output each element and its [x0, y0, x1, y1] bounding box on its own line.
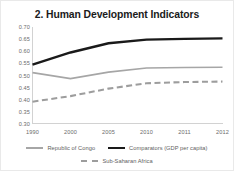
y-tick-label: 0.40: [19, 97, 30, 103]
chart-figure: 2. Human Development Indicators 0.700.65…: [0, 0, 234, 171]
x-tick-label: 2012: [216, 129, 229, 135]
legend-row: Republic of CongoComparators (GDP per ca…: [1, 141, 233, 154]
x-tick-label: 2010: [140, 129, 153, 135]
plot-area: [32, 27, 223, 124]
y-tick-label: 0.50: [19, 73, 30, 79]
series-line: [33, 82, 223, 102]
legend-entry[interactable]: Sub-Saharan Africa: [81, 158, 152, 164]
y-axis-tick-labels: 0.700.650.600.550.500.450.400.350.30: [9, 27, 30, 124]
y-tick-label: 0.70: [19, 24, 30, 30]
series-line: [33, 38, 223, 64]
series-lines: [32, 27, 223, 124]
legend-swatch-icon: [81, 160, 98, 162]
legend-row: Sub-Saharan Africa: [1, 154, 233, 167]
y-tick-label: 0.65: [19, 36, 30, 42]
x-axis-tick-labels: 199020002005201020112012: [32, 128, 223, 138]
series-line: [33, 67, 223, 78]
x-tick-label: 2011: [178, 129, 190, 135]
y-tick-label: 0.45: [19, 85, 30, 91]
legend-label: Republic of Congo: [47, 145, 95, 151]
x-tick-label: 2005: [102, 129, 115, 135]
x-tick-label: 1990: [26, 129, 39, 135]
y-tick-label: 0.35: [19, 109, 30, 115]
y-tick-label: 0.60: [19, 48, 30, 54]
chart-legend: Republic of CongoComparators (GDP per ca…: [1, 141, 233, 167]
legend-swatch-icon: [26, 147, 43, 149]
y-tick-label: 0.30: [19, 121, 30, 127]
legend-entry[interactable]: Comparators (GDP per capita): [108, 145, 207, 151]
legend-label: Sub-Saharan Africa: [102, 158, 152, 164]
legend-swatch-icon: [108, 147, 125, 149]
legend-entry[interactable]: Republic of Congo: [26, 145, 95, 151]
chart-title: 2. Human Development Indicators: [1, 9, 233, 20]
x-tick-label: 2000: [64, 129, 77, 135]
y-tick-label: 0.55: [19, 60, 30, 66]
legend-label: Comparators (GDP per capita): [129, 145, 207, 151]
